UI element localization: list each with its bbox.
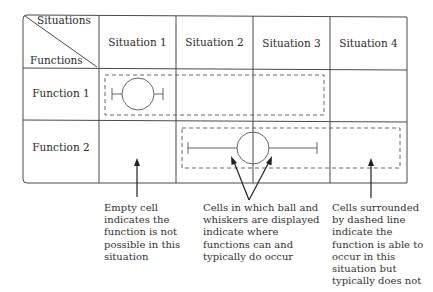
arrowhead	[368, 158, 374, 166]
column-header-situation-1: Situation 1	[99, 36, 176, 49]
corner-label-functions: Functions	[30, 54, 83, 67]
arrowhead	[266, 156, 272, 166]
row-label-function-2: Function 2	[23, 141, 99, 154]
row-label-function-1: Function 1	[23, 87, 99, 100]
ball	[122, 78, 154, 110]
row-divider	[23, 120, 407, 122]
column-header-situation-3: Situation 3	[253, 37, 330, 50]
column-header-situation-2: Situation 2	[176, 36, 253, 49]
dashed-region-function-1	[105, 75, 324, 115]
arrowhead	[231, 156, 237, 165]
note-dashed: Cells surrounded by dashed line indicate…	[332, 202, 428, 287]
arrowhead	[134, 158, 140, 166]
ball-and-whiskers-function-1	[112, 78, 163, 110]
column-header-situation-4: Situation 4	[330, 37, 407, 50]
note-ball-whiskers: Cells in which ball and whiskers are dis…	[203, 202, 323, 263]
annotation-arrows	[134, 156, 374, 200]
row-divider	[23, 68, 407, 70]
note-empty-cell: Empty cell indicates the function is not…	[104, 202, 186, 263]
corner-label-situations: Situations	[37, 14, 91, 27]
